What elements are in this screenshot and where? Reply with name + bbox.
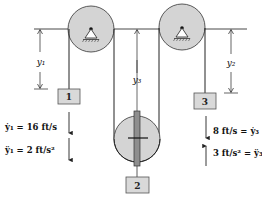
dimension-y3	[135, 30, 140, 74]
block-1: 1	[58, 89, 80, 104]
y1-velocity-label: ẏ₁ = 16 ft/s	[4, 122, 57, 132]
left-fixed-pulley	[68, 6, 114, 52]
block-3: 3	[194, 93, 216, 109]
y1-label: y₁	[36, 57, 46, 67]
y3-label: y₃	[132, 75, 142, 85]
block-2: 2	[126, 177, 149, 193]
y3-acceleration-label: 3 ft/s² = ÿ₃	[213, 148, 262, 158]
block-2-label: 2	[134, 181, 140, 191]
y2-label: y₂	[226, 58, 236, 68]
y1-acceleration-label: ÿ₁ = 2 ft/s²	[4, 145, 55, 155]
right-fixed-pulley	[159, 4, 205, 50]
pulley-diagram: 1 3 2 y₁ y₃ y₂ ẏ₁ = 16 ft/s ÿ₁ = 2 ft/s²…	[0, 0, 262, 204]
y3-velocity-label: 8 ft/s = ẏ₃	[213, 126, 259, 136]
block-1-label: 1	[66, 92, 72, 102]
block-3-label: 3	[202, 97, 208, 107]
